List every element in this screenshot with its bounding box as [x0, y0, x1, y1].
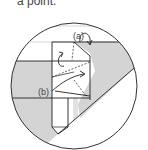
origami-diagram: (a) (b) — [0, 0, 148, 150]
label-a: (a) — [73, 31, 84, 41]
label-b: (b) — [38, 87, 49, 97]
